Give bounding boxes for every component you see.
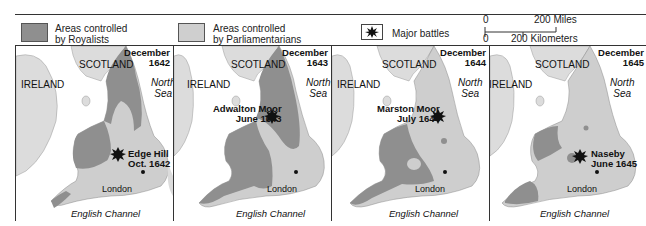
scotland-label: SCOTLAND [231,59,285,70]
royalist-label-line2: by Royalists [55,34,127,45]
scale-km-label: 200 Kilometers [511,33,578,44]
map-1645 [490,46,646,221]
scale-zero-km: 0 [483,33,489,44]
london-marker [141,170,145,174]
battle-label: Adwalton MoorJune 1643 [213,104,282,124]
parliament-label-line2: by Parliamentarians [213,34,301,45]
ireland-label: IRELAND [337,79,380,90]
scale-zero-miles: 0 [483,14,489,25]
panel-date: December1645 [598,48,644,68]
battle-star-icon [110,147,126,162]
parliament-legend-label: Areas controlled by Parliamentarians [213,23,301,45]
royalist-swatch [21,23,48,42]
london-marker [294,170,298,174]
ireland-label: IRELAND [21,79,64,90]
map-panel-1643: December1643 SCOTLAND IRELAND NorthSea A… [174,46,332,221]
ireland-label: IRELAND [187,79,230,90]
north-sea-label: NorthSea [151,77,174,99]
scale-bar: 0 200 Miles 0 200 Kilometers [483,2,643,42]
london-marker [595,170,599,174]
battle-legend-label: Major battles [392,28,449,39]
map-1643 [174,46,331,221]
parliament-swatch [178,23,205,42]
parliament-label-line1: Areas controlled [213,23,301,34]
battle-star-icon [362,25,382,39]
panel-date: December1643 [282,48,328,68]
battle-star-icon [572,149,588,164]
battle-legend-box [361,24,383,40]
channel-label: English Channel [236,208,305,219]
scale-miles-label: 200 Miles [534,14,577,25]
north-sea-label: NorthSea [458,77,482,99]
north-sea-label: NorthSea [610,77,634,99]
london-label: London [567,184,597,194]
london-label: London [415,184,445,194]
royalist-label-line1: Areas controlled [55,23,127,34]
map-1642 [16,46,173,221]
channel-label: English Channel [540,208,609,219]
london-marker [443,170,447,174]
map-panels: December1642 SCOTLAND IRELAND NorthSea E… [15,45,646,221]
panel-date: December1644 [440,48,486,68]
battle-label: NasebyJune 1645 [591,149,637,169]
map-panel-1642: December1642 SCOTLAND IRELAND NorthSea E… [16,46,174,221]
scotland-label: SCOTLAND [382,59,436,70]
london-label: London [267,184,297,194]
map-panel-1645: December1645 SCOTLAND IRELAND NorthSea N… [490,46,646,221]
battle-label: Marston MoorJuly 1644 [377,104,440,124]
ireland-label: IRELAND [490,79,532,90]
north-sea-label: NorthSea [306,77,330,99]
royalist-legend-label: Areas controlled by Royalists [55,23,127,45]
channel-label: English Channel [389,208,458,219]
scotland-label: SCOTLAND [79,59,133,70]
scotland-label: SCOTLAND [535,59,589,70]
map-panel-1644: December1644 SCOTLAND IRELAND NorthSea M… [332,46,490,221]
channel-label: English Channel [71,208,140,219]
battle-label: Edge HillOct. 1642 [128,149,170,169]
map-1644 [332,46,489,221]
london-label: London [102,184,132,194]
